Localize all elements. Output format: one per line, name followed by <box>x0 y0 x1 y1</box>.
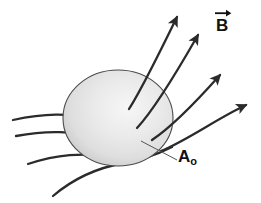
area-label: Ao <box>178 148 197 165</box>
field-line-4 <box>161 105 246 151</box>
field-label: B <box>216 17 228 34</box>
area-label-subscript: o <box>190 155 197 167</box>
area-label-base: A <box>178 147 190 166</box>
spherical-surface <box>63 70 173 166</box>
physics-diagram: Ao B <box>0 0 261 203</box>
